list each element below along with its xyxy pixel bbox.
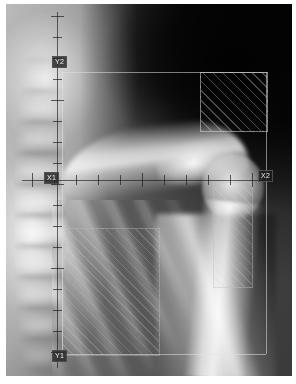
radiograph-image[interactable] [6,4,292,376]
image-viewport: Y2 X1 X2 Y1 [0,0,296,384]
marker-label-y2[interactable]: Y2 [52,56,67,68]
film-grain-overlay [6,4,292,376]
marker-label-y1[interactable]: Y1 [52,350,67,362]
marker-label-x1[interactable]: X1 [44,172,59,184]
marker-label-x2[interactable]: X2 [258,170,273,182]
